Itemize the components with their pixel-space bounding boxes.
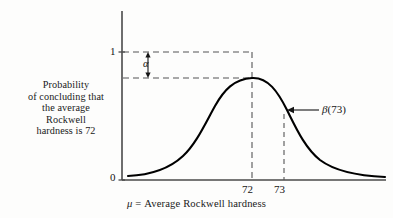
y-axis-caption-line-5: hardness is 72 xyxy=(14,125,118,137)
x-tick-label-73: 73 xyxy=(274,184,285,195)
x-axis-title-text: = Average Rockwell hardness xyxy=(132,198,266,209)
y-axis-caption-line-2: of concluding that xyxy=(14,91,118,103)
x-axis-title: μ = Average Rockwell hardness xyxy=(0,198,393,209)
y-tick-label-zero: 0 xyxy=(110,172,116,183)
y-axis-caption: Probability of concluding that the avera… xyxy=(14,79,118,137)
y-axis-caption-line-1: Probability xyxy=(14,79,118,91)
y-axis-caption-line-4: Rockwell xyxy=(14,114,118,126)
figure-canvas: Probability of concluding that the avera… xyxy=(0,0,393,218)
alpha-label: α xyxy=(143,58,149,69)
x-tick-label-72: 72 xyxy=(242,184,253,195)
oc-curve-path xyxy=(128,78,385,177)
beta-argument: (73) xyxy=(327,103,345,115)
y-axis-caption-line-3: the average xyxy=(14,102,118,114)
beta-annotation-label: β(73) xyxy=(322,103,346,115)
y-tick-label-one: 1 xyxy=(110,46,116,57)
beta-annotation-arrow xyxy=(287,107,319,113)
